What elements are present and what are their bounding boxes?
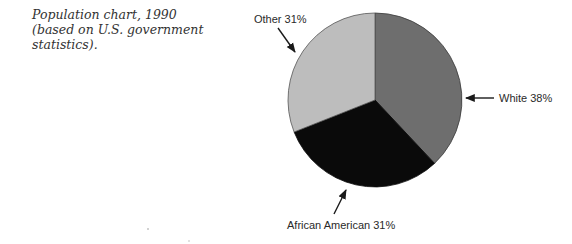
pie-chart: Other 31% White 38% African American 31% [0, 0, 572, 244]
callout-african-american: African American 31% [287, 190, 395, 231]
callout-white: White 38% [466, 92, 552, 104]
pie [288, 13, 462, 187]
callout-other: Other 31% [254, 13, 307, 52]
label-african-american: African American 31% [287, 219, 395, 231]
label-other: Other 31% [254, 13, 307, 25]
scan-specks [147, 228, 190, 242]
arrow-icon [334, 190, 346, 214]
arrow-icon [278, 28, 295, 52]
label-white: White 38% [499, 92, 552, 104]
